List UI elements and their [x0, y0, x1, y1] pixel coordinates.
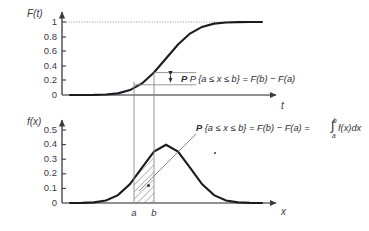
- pdf-panel: f(x) 0.5 0.4 0.3 0.2 0.1 0 a: [27, 116, 362, 218]
- pdf-region-dot: [147, 184, 150, 187]
- pdf-curve: [70, 145, 262, 203]
- cdf-y-axis-label: F(t): [27, 8, 43, 19]
- cdf-tick-0.8: 0.8: [44, 31, 57, 42]
- pdf-annotation: P{a ≤ x ≤ b} = F(b) − F(a) =: [196, 123, 310, 133]
- cdf-tick-0.4: 0.4: [44, 60, 57, 71]
- pdf-y-axis-label: f(x): [27, 116, 41, 127]
- cdf-annotation: PP {a ≤ x ≤ b} = F(b) − F(a): [181, 74, 295, 84]
- pdf-marker-label-b: b: [151, 207, 156, 218]
- cdf-tick-0: 0: [52, 89, 57, 100]
- pdf-tick-0.1: 0.1: [44, 182, 57, 193]
- cdf-x-axis-name: t: [281, 100, 285, 111]
- pdf-tick-0.5: 0.5: [44, 124, 57, 135]
- cdf-tick-0.2: 0.2: [44, 74, 57, 85]
- pdf-integrand: f(x)dx: [338, 123, 362, 133]
- cdf-panel: F(t) 1 0.8 0.6 0.4 0.2 0 PP: [27, 8, 295, 118]
- pdf-tick-0: 0: [52, 197, 57, 208]
- pdf-tick-0.2: 0.2: [44, 167, 57, 178]
- pdf-x-axis-name: x: [280, 206, 287, 217]
- pdf-stray-dot: [214, 152, 216, 154]
- pdf-integral-lower-limit: a: [332, 132, 336, 139]
- cdf-curve: [70, 22, 262, 95]
- distribution-figure: F(t) 1 0.8 0.6 0.4 0.2 0 PP: [0, 0, 369, 231]
- cdf-tick-0.6: 0.6: [44, 45, 57, 56]
- cdf-tick-1: 1: [52, 16, 57, 27]
- pdf-tick-0.3: 0.3: [44, 153, 57, 164]
- pdf-marker-label-a: a: [131, 207, 136, 218]
- pdf-tick-0.4: 0.4: [44, 138, 57, 149]
